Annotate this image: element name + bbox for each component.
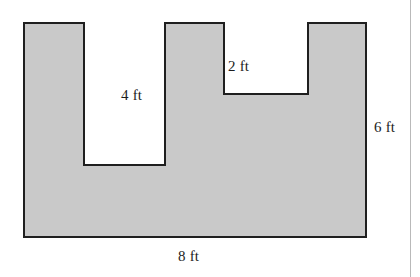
notched-rectangle-shape [24, 23, 366, 237]
dimension-label-right-notch-depth: 2 ft [228, 59, 249, 74]
dimension-label-overall-width: 8 ft [178, 249, 199, 264]
figure-container: 4 ft 2 ft 6 ft 8 ft [0, 0, 420, 277]
composite-shape-diagram [0, 0, 420, 277]
page-rule-divider [410, 0, 411, 277]
dimension-label-left-notch-depth: 4 ft [121, 88, 142, 103]
dimension-label-overall-height: 6 ft [374, 120, 395, 135]
